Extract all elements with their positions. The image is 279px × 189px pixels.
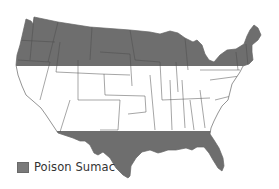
legend-swatch bbox=[17, 162, 29, 173]
legend: Poison Sumac bbox=[17, 160, 115, 174]
legend-label: Poison Sumac bbox=[34, 160, 115, 174]
